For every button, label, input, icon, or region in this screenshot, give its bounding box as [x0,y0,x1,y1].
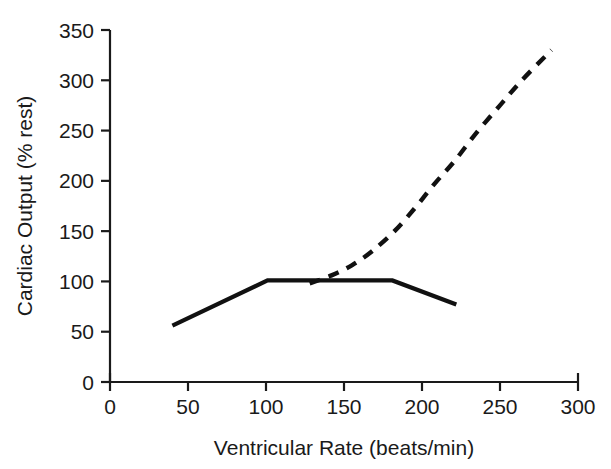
x-tick-label: 150 [326,395,361,418]
y-tick-label: 100 [59,270,94,293]
series-solid-curve [172,280,456,325]
y-tick-label: 0 [82,371,94,394]
x-tick-label: 50 [176,395,199,418]
y-tick-label: 50 [71,320,94,343]
line-chart: 050100150200250300350 050100150200250300… [0,0,611,469]
y-axis-title: Cardiac Output (% rest) [13,96,36,317]
y-tick-label: 150 [59,220,94,243]
x-tick-label: 100 [248,395,283,418]
series-dashed-curve [310,50,552,283]
y-tick-label: 350 [59,19,94,42]
y-tick-label: 200 [59,169,94,192]
x-tick-label: 200 [404,395,439,418]
x-axis-tick-labels: 050100150200250300 [104,395,595,418]
axes-group [101,30,578,391]
x-tick-label: 0 [104,395,116,418]
y-tick-label: 300 [59,69,94,92]
y-axis-tick-labels: 050100150200250300350 [59,19,94,394]
x-tick-label: 300 [560,395,595,418]
x-tick-label: 250 [482,395,517,418]
y-tick-label: 250 [59,119,94,142]
y-axis-tick-marks [101,30,110,382]
chart-figure: 050100150200250300350 050100150200250300… [0,0,611,469]
x-axis-title: Ventricular Rate (beats/min) [214,436,474,459]
series-group [172,50,551,326]
